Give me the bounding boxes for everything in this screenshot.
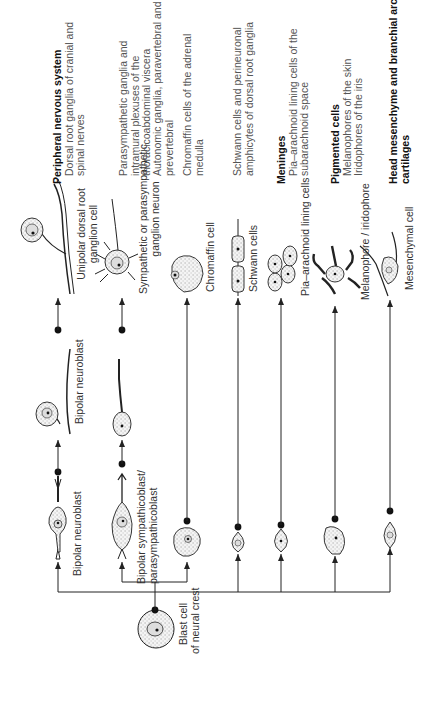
meninges-derivative: Meninges Pia–arachnoid lining cells of t… — [276, 28, 311, 184]
chromaffin-cell-icon — [171, 256, 203, 292]
sympathicoblast-label: Bipolar sympathicoblast/ parasympathicob… — [136, 470, 159, 584]
head-mesenchyme-derivative: Head mesenchyme and branchial arch carti… — [388, 0, 411, 184]
blast-cell-icon — [138, 610, 174, 648]
mesenchymal-precursor-icon — [384, 522, 396, 548]
pigment-derivative: Pigmented cells Melanophores of the skin… — [330, 59, 365, 184]
schwann-precursor-icon — [232, 532, 244, 552]
neural-crest-lineage-diagram: Blast cell of neural crest Bipolar neuro… — [0, 0, 422, 724]
bipolar-neuroblast-icon — [49, 476, 66, 559]
schwann-derivative: Schwann cells and perineuronal amphicyte… — [232, 22, 255, 176]
sympathicoblast-icon — [112, 474, 132, 559]
ganglion-neuron-icon — [95, 199, 138, 282]
bipolar-neuroblast-label: Bipolar neuroblast — [72, 491, 84, 576]
bipolar-neuroblast-2-icon — [36, 349, 70, 434]
blast-cell-label: Blast cell of neural crest — [178, 594, 201, 654]
chromaffin-label: Chromaffin cell — [205, 222, 217, 292]
schwann-label: Schwann cells — [248, 225, 260, 292]
melanophore-label: Melanophore / iridophore — [360, 183, 372, 300]
chromaffin-derivative: Chromaffin cells of the adrenal medulla — [182, 34, 205, 176]
melanophore-precursor-icon — [324, 527, 345, 554]
pia-arachnoid-cells-icon — [268, 246, 297, 291]
bipolar-neuroblast-2-label: Bipolar neuroblast — [74, 339, 86, 424]
pns-derivative: Peripheral nervous system Dorsal root ga… — [52, 22, 87, 184]
chromaffin-precursor-icon — [174, 528, 201, 557]
unipolar-label: Unipolar dorsal root ganglion cell — [76, 169, 99, 299]
mesenchymal-label: Mesenchymal cell — [404, 207, 416, 290]
autonomic-derivative: Autonomic ganglia, paravertebral and pre… — [152, 1, 175, 176]
parasympathetic-derivative: Parasympathetic ganglia and intramural p… — [118, 41, 153, 176]
pia-arachnoid-label: Pia–arachnoid lining cells — [300, 178, 312, 297]
melanophore-icon — [314, 246, 361, 294]
pia-precursor-icon — [275, 529, 288, 552]
sympathicoblast-2-icon — [113, 359, 131, 436]
unipolar-ganglion-cell-icon — [21, 179, 74, 294]
schwann-cells-icon — [232, 219, 244, 296]
